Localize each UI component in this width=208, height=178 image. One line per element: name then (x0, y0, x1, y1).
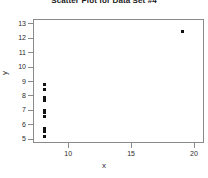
y-axis-tick-mark (28, 124, 33, 125)
y-axis-tick-mark (28, 95, 33, 96)
y-axis-tick-mark (28, 23, 33, 24)
y-axis-tick-mark (28, 67, 33, 68)
x-axis-tick-mark (194, 143, 195, 148)
x-axis-tick-mark (131, 143, 132, 148)
data-point (43, 115, 46, 118)
y-axis-label: y (1, 71, 9, 75)
y-axis-tick-mark (28, 110, 33, 111)
x-axis-tick-label: 20 (182, 150, 206, 157)
y-axis-tick-label: 12 (6, 34, 26, 41)
y-axis-tick-mark (28, 81, 33, 82)
y-axis-tick-label: 10 (6, 63, 26, 70)
scatter-plot-figure: Scatter Plot for Data Set #4 y x 5678910… (0, 0, 208, 178)
y-axis-tick-label: 11 (6, 49, 26, 56)
y-axis-tick-label: 7 (6, 106, 26, 113)
y-axis-tick-label: 8 (6, 92, 26, 99)
data-point (43, 88, 46, 91)
y-axis-tick-label: 9 (6, 78, 26, 85)
data-point (43, 99, 46, 102)
data-point (43, 111, 46, 114)
y-axis-tick-label: 13 (6, 20, 26, 27)
y-axis-tick-label: 6 (6, 121, 26, 128)
x-axis-tick-mark (68, 143, 69, 148)
x-axis-tick-label: 15 (119, 150, 143, 157)
y-axis-tick-mark (28, 139, 33, 140)
y-axis-tick-mark (28, 38, 33, 39)
x-axis-label: x (0, 162, 208, 170)
plot-area (33, 19, 204, 143)
data-point (43, 135, 46, 138)
data-point (43, 83, 46, 86)
y-axis-tick-mark (28, 52, 33, 53)
x-axis-tick-label: 10 (56, 150, 80, 157)
data-point (43, 130, 46, 133)
y-axis-tick-label: 5 (6, 135, 26, 142)
chart-title: Scatter Plot for Data Set #4 (0, 0, 208, 5)
data-point (181, 30, 184, 33)
